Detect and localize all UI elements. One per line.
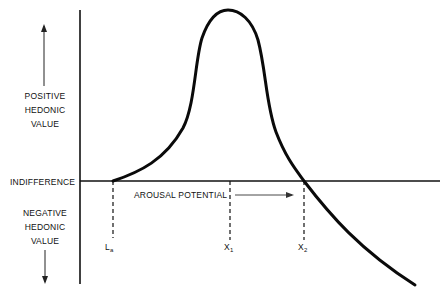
indifference-label: INDIFFERENCE	[10, 177, 75, 187]
negative-label-3: VALUE	[31, 236, 59, 246]
x1-label: X1	[224, 242, 234, 253]
up-arrow-icon	[41, 24, 47, 86]
la-label: La	[105, 242, 114, 253]
wundt-curve-chart: POSITIVE HEDONIC VALUE INDIFFERENCE NEGA…	[0, 0, 445, 293]
positive-label-1: POSITIVE	[25, 91, 66, 101]
negative-label-2: HEDONIC	[25, 222, 66, 232]
down-arrow-icon	[42, 250, 48, 284]
hedonic-curve	[113, 10, 415, 285]
x2-label: X2	[298, 242, 308, 253]
right-arrow-icon	[235, 192, 294, 198]
arousal-potential-label: AROUSAL POTENTIAL	[134, 190, 227, 200]
negative-label-1: NEGATIVE	[23, 208, 67, 218]
positive-label-2: HEDONIC	[25, 105, 66, 115]
positive-label-3: VALUE	[31, 119, 59, 129]
